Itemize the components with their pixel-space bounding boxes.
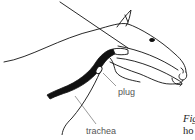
caption-line-2: ho: [183, 125, 195, 137]
trachea-label: trachea: [86, 127, 116, 136]
caption-line-1: Fig: [183, 113, 195, 125]
horse-head-drawing: [0, 0, 195, 140]
pointer-line-top: [60, 2, 128, 48]
tube-shape: [47, 49, 115, 99]
plug-leader: [103, 73, 116, 86]
tube-end: [113, 48, 128, 54]
figure-caption: Fig ho: [183, 113, 195, 137]
plug-label: plug: [118, 88, 135, 97]
face-outline: [128, 24, 186, 72]
